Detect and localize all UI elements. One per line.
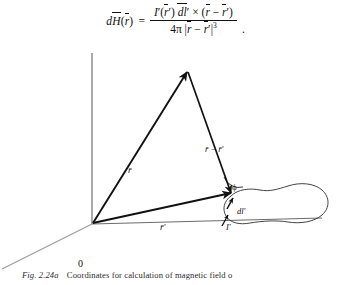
- vector-H-symbol: H: [112, 15, 121, 27]
- vector-r-symbol-den: r: [187, 23, 191, 36]
- coordinate-diagram: [0, 46, 351, 271]
- caption-text: Coordinates for calculation of magnetic …: [67, 270, 233, 280]
- caption-figure-number: Fig. 2.24a: [22, 270, 59, 280]
- equation-block: dH(r) = I′(r′) dl′ × (r − r′) 4π |r − r′…: [0, 6, 351, 36]
- horizontal-axis: [92, 218, 322, 224]
- label-vector-r: r̄: [128, 165, 132, 175]
- fraction-numerator: I′(r′) dl′ × (r − r′): [150, 6, 237, 20]
- label-current-prime: I′: [226, 222, 231, 232]
- vector-r-prime-symbol-den: r: [204, 23, 208, 36]
- label-dl-prime: dl′: [237, 206, 245, 216]
- vector-r-prime-symbol-num: r: [222, 6, 226, 19]
- figure-page: dH(r) = I′(r′) dl′ × (r − r′) 4π |r − r′…: [0, 0, 351, 285]
- label-angle-phi: ϕ: [232, 182, 237, 192]
- vector-r-prime-symbol: r: [164, 6, 168, 19]
- minus-sign: −: [213, 6, 220, 18]
- vector-r: [93, 72, 187, 223]
- fraction: I′(r′) dl′ × (r − r′) 4π |r − r′|3: [150, 6, 237, 36]
- label-vector-difference: r̄ − r̄′: [205, 144, 223, 154]
- four-pi: 4π: [170, 23, 182, 35]
- vector-r-prime: [93, 193, 231, 223]
- cross-product-sign: ×: [192, 6, 199, 18]
- axes-group: [2, 53, 322, 269]
- equation-row: dH(r) = I′(r′) dl′ × (r − r′) 4π |r − r′…: [106, 6, 245, 36]
- vector-r-symbol-num: r: [205, 6, 209, 19]
- vector-r-symbol: r: [125, 15, 130, 27]
- dl-prime-arrow: [227, 198, 233, 209]
- label-origin: 0: [78, 258, 83, 269]
- equation-period: .: [240, 23, 245, 36]
- fraction-denominator: 4π |r − r′|3: [166, 21, 221, 36]
- exponent-three: 3: [213, 21, 217, 30]
- minus-sign-den: −: [194, 23, 201, 35]
- equals-sign: =: [136, 15, 147, 27]
- label-vector-r-prime: r̄′: [160, 222, 165, 232]
- vector-r-minus-r-prime: [188, 72, 231, 193]
- diagram-canvas: r̄ r̄′ r̄ − r̄′ ϕ dl′ I′ 0: [0, 46, 351, 271]
- equation-left-hand-side: dH(r): [106, 15, 133, 27]
- figure-caption: Fig. 2.24a Coordinates for calculation o…: [22, 270, 232, 280]
- vector-dl-prime-symbol: dl: [178, 6, 187, 19]
